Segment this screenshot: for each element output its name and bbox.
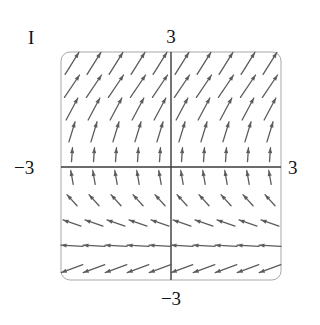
arrow-head <box>269 122 273 128</box>
field-arrow <box>86 75 101 97</box>
arrow-head <box>162 52 167 58</box>
arrow-head <box>97 75 102 81</box>
arrow-head <box>129 220 135 224</box>
arrow-head <box>237 269 243 273</box>
field-arrow <box>197 52 211 74</box>
arrow-head <box>268 148 272 154</box>
arrow-head <box>207 75 212 81</box>
arrow-head <box>105 243 111 247</box>
arrow-head <box>251 75 256 81</box>
field-arrow <box>215 243 237 247</box>
field-arrow <box>201 122 208 142</box>
axis-tick-label-left: −3 <box>14 158 34 177</box>
field-arrow <box>219 52 233 74</box>
field-arrow <box>180 171 184 185</box>
arrow-head <box>127 269 133 273</box>
field-arrow <box>223 122 230 142</box>
field-arrow <box>136 171 140 185</box>
arrow-head <box>215 243 221 247</box>
arrow-head <box>117 98 121 104</box>
arrow-head <box>271 98 275 104</box>
arrow-head <box>227 98 231 104</box>
field-arrow <box>195 220 213 226</box>
arrow-head <box>193 243 199 247</box>
field-arrow <box>64 75 79 97</box>
field-arrow <box>127 265 149 273</box>
field-arrow <box>110 98 122 120</box>
field-arrow <box>158 148 162 162</box>
field-arrow <box>264 98 276 120</box>
arrow-head <box>180 148 184 154</box>
field-arrow <box>85 220 103 226</box>
arrow-head <box>195 220 201 224</box>
field-arrow <box>239 220 257 226</box>
arrow-head <box>173 220 179 224</box>
field-arrow <box>129 220 147 226</box>
field-arrow <box>198 98 210 120</box>
arrow-head <box>105 269 111 273</box>
arrow-head <box>247 122 251 128</box>
field-arrow <box>202 171 206 185</box>
field-arrow <box>246 148 250 162</box>
field-arrow <box>66 98 78 120</box>
field-arrow <box>171 265 193 273</box>
field-arrow <box>133 195 143 206</box>
arrow-head <box>206 52 211 58</box>
axis-tick-label-bottom: −3 <box>0 289 320 308</box>
field-arrow <box>91 122 98 142</box>
field-arrow <box>130 75 145 97</box>
field-arrow <box>241 52 255 74</box>
field-arrow <box>224 171 228 185</box>
arrow-head <box>70 148 74 154</box>
field-arrow <box>218 75 233 97</box>
field-arrow <box>135 122 142 142</box>
field-arrow <box>175 52 189 74</box>
arrow-head <box>181 122 185 128</box>
field-arrow <box>259 265 281 273</box>
field-arrow <box>246 171 250 185</box>
field-arrow <box>114 171 118 185</box>
arrow-head <box>92 148 96 154</box>
field-arrow <box>176 98 188 120</box>
field-arrow <box>220 98 232 120</box>
field-arrow <box>157 122 164 142</box>
field-arrow <box>267 122 274 142</box>
field-arrow <box>240 75 255 97</box>
field-arrow <box>132 98 144 120</box>
arrow-head <box>225 122 229 128</box>
axis-tick-label-top: 3 <box>0 27 320 46</box>
arrow-head <box>115 122 119 128</box>
arrow-head <box>184 52 189 58</box>
field-arrow <box>245 122 252 142</box>
arrow-head <box>250 52 255 58</box>
arrow-head <box>114 148 118 154</box>
field-arrow <box>111 195 121 206</box>
arrow-head <box>249 98 253 104</box>
field-arrow <box>221 195 231 206</box>
arrow-head <box>136 148 140 154</box>
arrow-head <box>127 243 133 247</box>
field-arrow <box>259 243 281 247</box>
direction-field-figure: I 3 −3 −3 3 <box>0 0 320 325</box>
arrow-head <box>141 75 146 81</box>
field-arrow <box>215 265 237 273</box>
field-arrow <box>261 220 279 226</box>
arrow-head <box>93 122 97 128</box>
arrow-head <box>83 269 89 273</box>
arrow-head <box>61 269 67 273</box>
field-arrow <box>180 148 184 162</box>
field-arrow <box>158 171 162 185</box>
arrow-head <box>83 243 89 247</box>
arrow-head <box>185 75 190 81</box>
field-arrow <box>61 265 83 273</box>
field-arrow <box>152 75 167 97</box>
field-arrow <box>173 220 191 226</box>
field-arrow <box>105 243 127 247</box>
field-arrow <box>196 75 211 97</box>
field-arrow <box>155 195 165 206</box>
arrow-head <box>272 52 277 58</box>
arrow-head <box>161 98 165 104</box>
field-arrow <box>114 148 118 162</box>
arrow-head <box>158 148 162 154</box>
arrow-head <box>203 122 207 128</box>
